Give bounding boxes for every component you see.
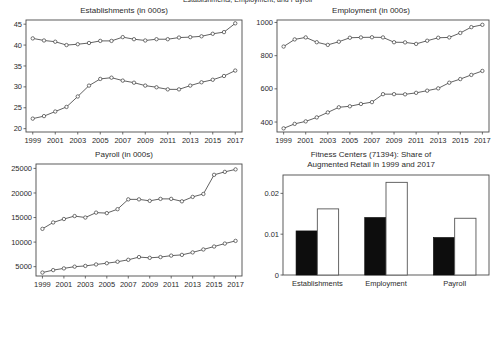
series-fitness-centers bbox=[282, 69, 484, 130]
x-tick-label: 2001 bbox=[47, 135, 64, 144]
data-point bbox=[180, 253, 183, 256]
data-point bbox=[159, 197, 162, 200]
chart-title-fitness-share-line1: Fitness Centers (71394): Share of bbox=[247, 150, 495, 160]
y-tick-label: 0.02 bbox=[264, 189, 279, 198]
x-tick-label: 2013 bbox=[430, 135, 447, 144]
data-point bbox=[180, 199, 183, 202]
data-point bbox=[121, 78, 124, 81]
x-tick-label: 2017 bbox=[227, 279, 244, 288]
y-tick-label: 5000 bbox=[15, 262, 32, 271]
data-point bbox=[116, 207, 119, 210]
data-point bbox=[99, 39, 102, 42]
data-point bbox=[155, 85, 158, 88]
data-point bbox=[337, 40, 340, 43]
data-point bbox=[121, 35, 124, 38]
y-tick-label: 15000 bbox=[11, 213, 32, 222]
y-tick-label: 40 bbox=[14, 40, 22, 49]
data-point bbox=[105, 211, 108, 214]
data-point bbox=[392, 92, 395, 95]
x-tick-label: 2015 bbox=[204, 135, 221, 144]
data-point bbox=[348, 36, 351, 39]
data-point bbox=[132, 37, 135, 40]
data-point bbox=[155, 37, 158, 40]
data-point bbox=[31, 36, 34, 39]
data-point bbox=[370, 35, 373, 38]
x-tick-label: 2011 bbox=[160, 135, 176, 144]
bar-1999 bbox=[433, 237, 454, 275]
data-point bbox=[200, 80, 203, 83]
data-point bbox=[65, 105, 68, 108]
figure-canvas: Establishments, Employment, and Payroll … bbox=[0, 0, 495, 340]
data-point bbox=[127, 258, 130, 261]
x-tick-label: 2011 bbox=[163, 279, 179, 288]
data-point bbox=[381, 92, 384, 95]
y-tick-label: 30 bbox=[14, 82, 22, 91]
data-point bbox=[202, 247, 205, 250]
chart-title-employment: Employment (in 000s) bbox=[247, 6, 495, 16]
data-point bbox=[211, 32, 214, 35]
data-point bbox=[304, 119, 307, 122]
chart-title-establishments: Establishments (in 000s) bbox=[0, 6, 248, 16]
chart-title-fitness-share-line2: Augmented Retail in 1999 and 2017 bbox=[247, 160, 495, 170]
x-tick-label: 2001 bbox=[297, 135, 314, 144]
y-tick-label: 1000 bbox=[256, 18, 273, 27]
data-point bbox=[359, 35, 362, 38]
data-point bbox=[191, 195, 194, 198]
series-line bbox=[284, 70, 483, 127]
data-point bbox=[359, 102, 362, 105]
data-point bbox=[282, 126, 285, 129]
data-point bbox=[459, 31, 462, 34]
data-point bbox=[200, 34, 203, 37]
data-point bbox=[166, 87, 169, 90]
data-point bbox=[448, 81, 451, 84]
x-tick-label: 2009 bbox=[386, 135, 403, 144]
data-point bbox=[370, 100, 373, 103]
data-point bbox=[54, 40, 57, 43]
category-label: Employment bbox=[365, 279, 408, 288]
y-tick-label: 20 bbox=[14, 124, 22, 133]
panel-establishments: Establishments (in 000s) 202530354045199… bbox=[0, 6, 248, 150]
bar-1999 bbox=[365, 217, 386, 275]
series-fitness-centers bbox=[41, 239, 238, 274]
x-tick-label: 2003 bbox=[69, 135, 86, 144]
x-tick-label: 2007 bbox=[364, 135, 381, 144]
data-point bbox=[189, 35, 192, 38]
data-point bbox=[87, 41, 90, 44]
x-tick-label: 1999 bbox=[24, 135, 41, 144]
data-point bbox=[62, 217, 65, 220]
data-point bbox=[293, 37, 296, 40]
bar-2017 bbox=[455, 218, 476, 275]
data-point bbox=[51, 268, 54, 271]
data-point bbox=[403, 40, 406, 43]
line-chart-establishments: 2025303540451999200120032005200720092011… bbox=[0, 16, 248, 146]
chart-title-payroll: Payroll (in 000s) bbox=[0, 150, 248, 160]
x-tick-label: 2017 bbox=[474, 135, 491, 144]
data-point bbox=[51, 220, 54, 223]
data-point bbox=[414, 42, 417, 45]
data-point bbox=[293, 122, 296, 125]
data-point bbox=[315, 40, 318, 43]
data-point bbox=[222, 30, 225, 33]
data-point bbox=[94, 262, 97, 265]
data-point bbox=[177, 35, 180, 38]
data-point bbox=[84, 215, 87, 218]
y-tick-label: 600 bbox=[260, 84, 273, 93]
data-point bbox=[105, 261, 108, 264]
bar-2017 bbox=[386, 182, 407, 275]
data-point bbox=[110, 75, 113, 78]
data-point bbox=[137, 255, 140, 258]
line-chart-employment: 4006008001000199920012003200520072009201… bbox=[247, 16, 495, 146]
y-tick-label: 800 bbox=[260, 51, 273, 60]
data-point bbox=[177, 87, 180, 90]
plot-frame bbox=[26, 20, 242, 132]
data-point bbox=[76, 42, 79, 45]
data-point bbox=[234, 21, 237, 24]
data-point bbox=[481, 23, 484, 26]
data-point bbox=[132, 80, 135, 83]
x-tick-label: 2011 bbox=[408, 135, 424, 144]
category-label: Payroll bbox=[443, 279, 466, 288]
series-other-recreation bbox=[282, 23, 484, 48]
y-tick-label: 35 bbox=[14, 61, 22, 70]
data-point bbox=[470, 73, 473, 76]
data-point bbox=[223, 241, 226, 244]
